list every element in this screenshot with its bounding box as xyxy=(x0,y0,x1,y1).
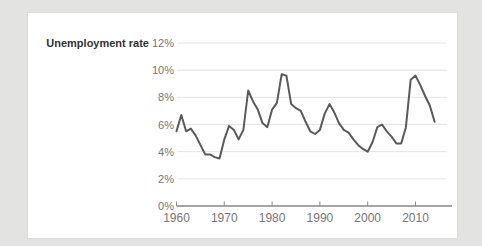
x-axis xyxy=(177,202,453,207)
x-tick-label: 1980 xyxy=(259,211,286,225)
x-tick-label: 1960 xyxy=(163,211,190,225)
y-tick-label: 4% xyxy=(158,146,174,158)
chart-card: 12%10%8%6%4%2%0% 19601970198019902000201… xyxy=(27,12,458,239)
unemployment-line xyxy=(177,74,435,158)
y-tick-label: 10% xyxy=(152,64,174,76)
x-tick-label: 2010 xyxy=(402,211,429,225)
x-tick-label: 2000 xyxy=(354,211,381,225)
unemployment-rate-chart: 12%10%8%6%4%2%0% 19601970198019902000201… xyxy=(28,13,459,240)
x-tick-label: 1970 xyxy=(211,211,238,225)
y-tick-label: 2% xyxy=(158,173,174,185)
y-tick-label: 12% xyxy=(152,37,174,49)
x-axis-labels: 196019701980199020002010 xyxy=(163,211,429,225)
y-axis-labels: 12%10%8%6%4%2%0% xyxy=(152,37,174,212)
x-tick-label: 1990 xyxy=(307,211,334,225)
y-tick-label: 8% xyxy=(158,91,174,103)
chart-title: Unemployment rate xyxy=(46,37,149,49)
y-tick-label: 6% xyxy=(158,119,174,131)
